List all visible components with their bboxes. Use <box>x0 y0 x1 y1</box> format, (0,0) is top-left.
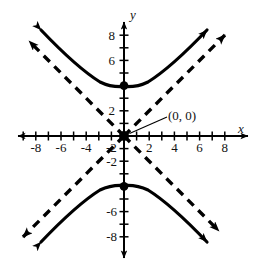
vertex-point-lower <box>120 182 129 191</box>
x-tick-label: 4 <box>171 140 178 155</box>
vertex-point-upper <box>120 81 129 90</box>
axis-lines <box>18 22 248 258</box>
x-tick-label: 2 <box>146 140 153 155</box>
y-tick-label: -8 <box>106 229 117 244</box>
y-axis-label: y <box>128 7 136 22</box>
x-tick-label: 6 <box>196 140 203 155</box>
x-axis-label: x <box>237 121 244 136</box>
y-tick-label: -6 <box>106 204 117 219</box>
x-tick-label: -6 <box>56 140 67 155</box>
x-tick-label: -4 <box>81 140 92 155</box>
y-tick-label: 8 <box>109 28 116 43</box>
x-tick-label: 8 <box>222 140 229 155</box>
x-tick-label: -8 <box>30 140 41 155</box>
y-tick-label: 2 <box>109 103 116 118</box>
hyperbola-graph-figure: (0, 0) x y -8 -6 -4 -2 2 4 6 8 8 6 2 -2 … <box>0 0 259 272</box>
origin-label: (0, 0) <box>168 108 196 123</box>
y-tick-label: 6 <box>109 53 116 68</box>
y-tick-label: -2 <box>106 154 117 169</box>
x-tick-label: -2 <box>106 140 117 155</box>
coordinate-plane-svg: (0, 0) x y -8 -6 -4 -2 2 4 6 8 8 6 2 -2 … <box>0 0 259 272</box>
origin-point <box>119 131 129 141</box>
